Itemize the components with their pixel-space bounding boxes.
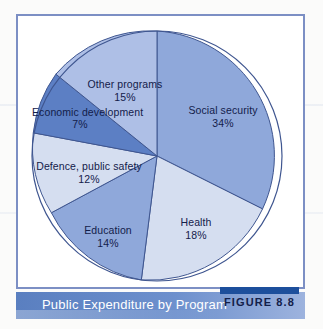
pie-chart: Social security 34% Health 18% Education… xyxy=(18,16,303,287)
pie-label-other-pct: 15% xyxy=(68,91,182,104)
pie-label-education-text: Education xyxy=(84,224,132,236)
pie-label-economic-text: Economic development xyxy=(32,106,128,118)
pie-label-education-pct: 14% xyxy=(68,237,148,250)
figure-number-accent-bar xyxy=(220,287,299,294)
figure-caption-bar: Public Expenditure by Program FIGURE 8.8 xyxy=(16,292,305,319)
caption-sheen xyxy=(16,310,305,319)
pie-label-health: Health 18% xyxy=(166,216,226,241)
pie-label-defence-text: Defence, public safety xyxy=(36,160,142,172)
pie-label-social-security: Social security 34% xyxy=(168,104,278,129)
pie-label-defence-pct: 12% xyxy=(24,173,154,186)
figure-number-label: FIGURE 8.8 xyxy=(220,296,299,308)
figure-frame: Social security 34% Health 18% Education… xyxy=(16,14,305,289)
pie-label-economic-pct: 7% xyxy=(32,118,128,130)
pie-label-education: Education 14% xyxy=(68,224,148,249)
pie-chart-svg xyxy=(18,16,303,287)
pie-label-social-security-pct: 34% xyxy=(168,117,278,130)
pie-label-social-security-text: Social security xyxy=(188,104,257,116)
pie-label-health-pct: 18% xyxy=(166,229,226,242)
pie-label-economic-development: Economic development 7% xyxy=(32,106,128,130)
pie-label-health-text: Health xyxy=(181,216,212,228)
pie-label-defence-public-safety: Defence, public safety 12% xyxy=(24,160,154,185)
pie-label-other-programs: Other programs 15% xyxy=(68,78,182,103)
pie-label-other-text: Other programs xyxy=(88,78,163,90)
